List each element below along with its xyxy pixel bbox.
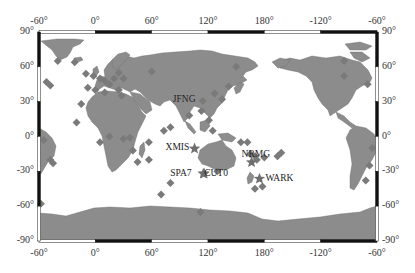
station-diamond-icon xyxy=(145,138,153,146)
axis-tick-label: 30° xyxy=(382,96,396,106)
central-america xyxy=(336,112,356,128)
station-diamond-icon xyxy=(166,123,174,131)
axis-tick-label: 90° xyxy=(20,26,34,36)
station-diamond-icon xyxy=(362,177,370,185)
axis-tick-label: -30° xyxy=(17,165,34,175)
station-diamond-icon xyxy=(77,100,85,108)
station-label-jfng: JFNG xyxy=(173,95,196,105)
station-diamond-icon xyxy=(258,182,266,190)
station-diamond-icon xyxy=(82,70,90,78)
south-america xyxy=(346,126,377,190)
south-america-west-edge xyxy=(39,128,56,176)
axis-tick-label: 120° xyxy=(199,248,218,258)
antarctica xyxy=(39,206,377,241)
axis-tick-label: -120° xyxy=(309,16,331,26)
greenland xyxy=(41,39,84,60)
axis-tick-label: 60° xyxy=(382,61,396,71)
axis-tick-label: 60° xyxy=(145,16,159,26)
axis-tick-label: -30° xyxy=(382,165,399,175)
axis-tick-label: 120° xyxy=(199,16,218,26)
station-diamond-icon xyxy=(73,119,81,127)
station-diamond-icon xyxy=(251,185,259,193)
station-diamond-icon xyxy=(166,179,174,187)
axis-tick-label: 60° xyxy=(145,248,159,258)
station-star-icon xyxy=(189,143,200,154)
axis-tick-label: -90° xyxy=(382,235,399,245)
axis-tick-label: -120° xyxy=(309,248,331,258)
axis-tick-label: -60° xyxy=(382,200,399,210)
station-diamond-icon xyxy=(243,138,251,146)
sumatra xyxy=(185,121,196,134)
madagascar xyxy=(139,142,145,158)
axis-tick-label: 90° xyxy=(382,26,396,36)
axis-tick-label: -90° xyxy=(17,235,34,245)
axis-tick-label: -60° xyxy=(17,200,34,210)
axis-tick-label: 180° xyxy=(255,16,274,26)
north-america xyxy=(276,56,372,116)
new-zealand xyxy=(247,172,254,184)
gnss-station-map: -60°0°60°120°180°-120°-60°-60°0°60°120°1… xyxy=(0,0,415,273)
station-star-icon xyxy=(254,173,266,184)
arctic-islands xyxy=(345,42,372,50)
station-label-spa7: SPA7 xyxy=(170,169,191,179)
station-diamond-icon xyxy=(145,156,153,164)
axis-tick-label: 0° xyxy=(25,131,34,141)
axis-tick-label: 30° xyxy=(20,96,34,106)
australia xyxy=(198,140,236,170)
station-label-nrmg: NRMG xyxy=(242,150,271,160)
station-label-wark: WARK xyxy=(265,174,293,184)
station-label-cut0: CUT0 xyxy=(204,169,228,179)
map-canvas xyxy=(0,0,415,273)
axis-tick-label: -60° xyxy=(30,248,47,258)
axis-tick-label: 0° xyxy=(91,248,100,258)
axis-tick-label: 180° xyxy=(255,248,274,258)
station-diamond-icon xyxy=(84,84,92,92)
axis-tick-label: 0° xyxy=(382,131,391,141)
station-label-xmis: XMIS xyxy=(166,143,190,153)
station-diamond-icon xyxy=(134,158,142,166)
axis-tick-label: 60° xyxy=(20,61,34,71)
station-diamond-icon xyxy=(157,191,165,199)
landmass-layer xyxy=(39,39,377,241)
axis-tick-label: 0° xyxy=(91,16,100,26)
station-diamond-icon xyxy=(209,127,217,135)
axis-tick-label: -60° xyxy=(368,248,385,258)
station-diamond-icon xyxy=(160,127,168,135)
